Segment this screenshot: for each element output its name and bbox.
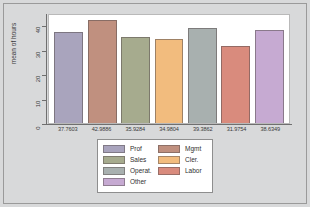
legend-label: Sales (130, 156, 146, 163)
bar (255, 30, 284, 123)
y-tick-mark (42, 100, 46, 101)
y-tick-mark (42, 51, 46, 52)
legend-label: Labor (185, 167, 202, 174)
bar (88, 20, 117, 123)
y-axis-line (46, 14, 47, 124)
y-tick-label: 10 (35, 97, 41, 111)
legend-column-right: MgmtCler.Labor (158, 144, 207, 186)
bar-slot (186, 15, 219, 123)
legend-label: Other (130, 178, 146, 185)
x-tick-label: 34.9804 (152, 126, 186, 132)
legend-color-swatch (158, 156, 180, 164)
legend-label: Prof (130, 145, 142, 152)
bar-slot (85, 15, 118, 123)
legend-color-swatch (103, 167, 125, 175)
x-tick-label: 39.3862 (186, 126, 220, 132)
legend-column-left: ProfSalesOperat.Other (103, 144, 152, 186)
legend-label: Mgmt (185, 145, 201, 152)
legend: ProfSalesOperat.Other MgmtCler.Labor (97, 139, 213, 193)
y-tick-mark (42, 124, 46, 125)
bar (121, 37, 150, 123)
legend-color-swatch (158, 145, 180, 153)
legend-color-swatch (103, 156, 125, 164)
x-tick-label: 42.9886 (85, 126, 119, 132)
y-tick-label: 30 (35, 48, 41, 62)
legend-color-swatch (158, 167, 180, 175)
bar (221, 46, 250, 123)
y-axis-title: mean of hours (10, 9, 17, 79)
bar-slot (119, 15, 152, 123)
legend-item[interactable]: Operat. (103, 166, 152, 175)
bar-slot (52, 15, 85, 123)
y-tick-mark (42, 75, 46, 76)
legend-color-swatch (103, 145, 125, 153)
y-tick-label: 0 (35, 121, 41, 135)
bar-slot (219, 15, 252, 123)
bar (54, 32, 83, 123)
legend-item[interactable]: Mgmt (158, 144, 207, 153)
legend-item[interactable]: Prof (103, 144, 152, 153)
y-tick-mark (42, 26, 46, 27)
x-tick-label: 38.6349 (253, 126, 287, 132)
y-tick-label: 40 (35, 23, 41, 37)
bar-chart-figure: mean of hours 37.760342.988635.928434.98… (0, 0, 310, 207)
bar-slot (152, 15, 185, 123)
bar-series (49, 15, 289, 123)
x-axis-line (46, 124, 292, 125)
legend-color-swatch (103, 178, 125, 186)
legend-label: Operat. (130, 167, 152, 174)
bar (155, 39, 184, 123)
x-tick-label: 35.9284 (118, 126, 152, 132)
bar-slot (253, 15, 286, 123)
y-tick-label: 20 (35, 72, 41, 86)
x-axis-tick-labels: 37.760342.988635.928434.980439.386231.97… (48, 126, 290, 132)
x-tick-label: 31.9754 (220, 126, 254, 132)
legend-item[interactable]: Labor (158, 166, 207, 175)
bar (188, 28, 217, 123)
legend-label: Cler. (185, 156, 198, 163)
legend-item[interactable]: Cler. (158, 155, 207, 164)
legend-item[interactable]: Sales (103, 155, 152, 164)
x-tick-label: 37.7603 (51, 126, 85, 132)
legend-item[interactable]: Other (103, 177, 152, 186)
plot-area (48, 14, 290, 124)
